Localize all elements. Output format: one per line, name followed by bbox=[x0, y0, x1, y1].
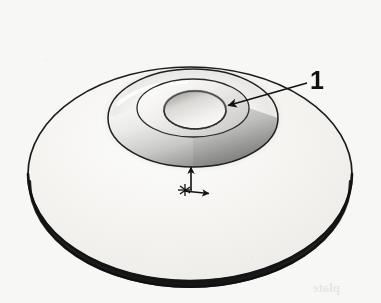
callout-label-1: 1 bbox=[310, 68, 324, 93]
central-hub bbox=[108, 69, 278, 167]
figure-canvas: dimension section assembly figure plate bbox=[0, 0, 381, 303]
svg-text:plate: plate bbox=[312, 280, 340, 295]
technical-drawing: dimension section assembly figure plate bbox=[0, 0, 381, 303]
